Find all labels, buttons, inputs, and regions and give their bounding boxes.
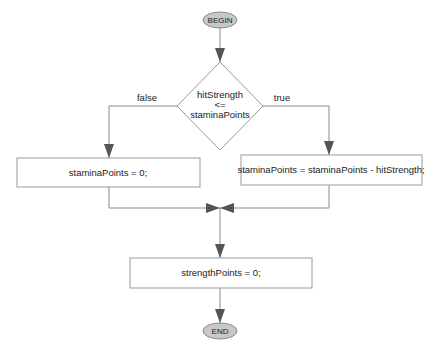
- false-process-box: staminaPoints = 0;: [17, 158, 200, 187]
- connector-true-branch: [263, 106, 329, 155]
- connector-true-merge: [220, 185, 329, 208]
- end-label: END: [212, 327, 229, 336]
- false-label: false: [137, 92, 157, 103]
- false-statement: staminaPoints = 0;: [69, 167, 147, 178]
- flowchart: BEGIN hitStrength <= staminaPoints false…: [0, 0, 435, 354]
- begin-terminal: BEGIN: [203, 12, 237, 28]
- strength-process-box: strengthPoints = 0;: [130, 258, 312, 288]
- strength-statement: strengthPoints = 0;: [181, 267, 260, 278]
- connector-false-branch: [109, 106, 177, 158]
- begin-label: BEGIN: [208, 16, 233, 25]
- decision-diamond: hitStrength <= staminaPoints: [177, 62, 263, 150]
- true-process-box: staminaPoints = staminaPoints - hitStren…: [237, 155, 424, 185]
- connector-false-merge: [109, 187, 220, 208]
- end-terminal: END: [203, 323, 237, 339]
- true-statement: staminaPoints = staminaPoints - hitStren…: [237, 164, 424, 175]
- true-label: true: [274, 92, 290, 103]
- decision-line-3: staminaPoints: [190, 109, 250, 120]
